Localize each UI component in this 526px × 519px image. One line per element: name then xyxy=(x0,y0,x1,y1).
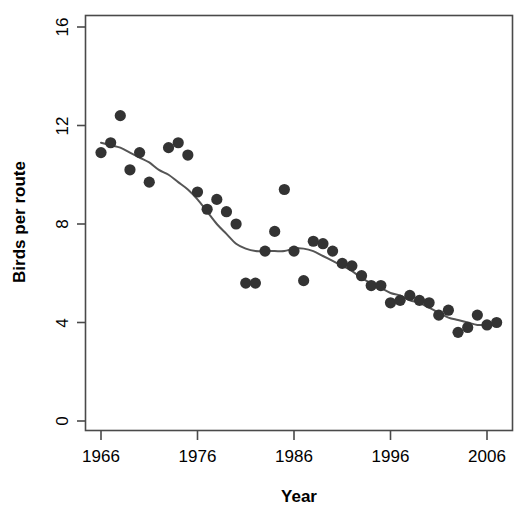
y-tick-label: 16 xyxy=(53,18,73,37)
y-tick-label: 12 xyxy=(53,116,73,135)
plot-frame xyxy=(86,16,513,431)
data-point xyxy=(202,204,213,215)
data-point xyxy=(163,142,174,153)
data-point xyxy=(298,275,309,286)
data-point xyxy=(105,137,116,148)
y-axis-title: Birds per route xyxy=(10,161,30,283)
data-point xyxy=(144,177,155,188)
scatter-chart: 048121619661976198619962006 Year Birds p… xyxy=(0,0,526,519)
data-point xyxy=(288,245,299,256)
data-point xyxy=(404,290,415,301)
data-point xyxy=(317,238,328,249)
x-axis-title: Year xyxy=(281,487,317,507)
data-point-group xyxy=(95,110,502,338)
data-point xyxy=(327,245,338,256)
x-tick-label: 1976 xyxy=(179,447,217,467)
data-point xyxy=(279,184,290,195)
data-point xyxy=(250,278,261,289)
data-point xyxy=(240,278,251,289)
x-tick-label: 1996 xyxy=(372,447,410,467)
x-tick-label: 1966 xyxy=(82,447,120,467)
data-point xyxy=(346,260,357,271)
y-tick-label: 8 xyxy=(53,219,73,228)
data-point xyxy=(491,317,502,328)
data-point xyxy=(337,258,348,269)
data-point xyxy=(173,137,184,148)
x-tick-label: 1986 xyxy=(275,447,313,467)
data-point xyxy=(433,310,444,321)
data-point xyxy=(269,226,280,237)
data-point xyxy=(192,186,203,197)
x-axis-ticks xyxy=(101,431,487,441)
plot-canvas xyxy=(0,0,526,519)
data-point xyxy=(414,295,425,306)
data-point xyxy=(375,280,386,291)
y-tick-label: 0 xyxy=(53,416,73,425)
data-point xyxy=(452,327,463,338)
y-axis-ticks xyxy=(77,27,86,421)
data-point xyxy=(424,297,435,308)
trend-line xyxy=(101,143,497,325)
x-tick-label: 2006 xyxy=(468,447,506,467)
data-point xyxy=(472,310,483,321)
data-point xyxy=(385,297,396,308)
data-point xyxy=(221,206,232,217)
data-point xyxy=(259,245,270,256)
data-point xyxy=(124,164,135,175)
data-point xyxy=(115,110,126,121)
data-point xyxy=(231,218,242,229)
data-point xyxy=(481,319,492,330)
data-point xyxy=(308,236,319,247)
data-point xyxy=(462,322,473,333)
data-point xyxy=(366,280,377,291)
y-tick-label: 4 xyxy=(53,318,73,327)
data-point xyxy=(356,270,367,281)
data-point xyxy=(443,305,454,316)
data-point xyxy=(182,149,193,160)
data-point xyxy=(211,194,222,205)
data-point xyxy=(95,147,106,158)
data-point xyxy=(395,295,406,306)
data-point xyxy=(134,147,145,158)
